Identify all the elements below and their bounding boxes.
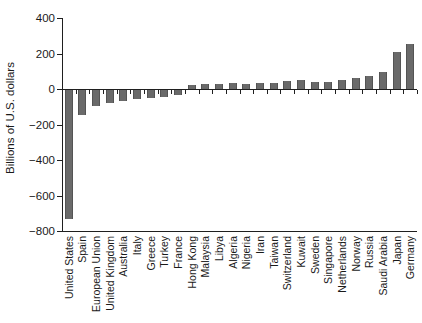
bar-australia — [119, 89, 127, 101]
category-tick — [199, 90, 200, 94]
y-tick — [57, 125, 62, 126]
category-tick — [308, 90, 309, 94]
bar-turkey — [160, 89, 168, 97]
bar-united-kingdom — [106, 89, 114, 103]
current-account-bar-chart: Billions of U.S. dollars 4002000−200−400… — [0, 0, 422, 323]
bar-switzerland — [283, 81, 291, 89]
bar-spain — [78, 89, 86, 115]
bar-sweden — [311, 82, 319, 89]
category-tick — [267, 90, 268, 94]
category-tick — [390, 90, 391, 94]
y-tick-label: −400 — [0, 153, 55, 167]
category-tick — [212, 90, 213, 94]
category-tick — [362, 90, 363, 94]
category-tick — [294, 90, 295, 94]
bar-singapore — [324, 82, 332, 89]
category-label-iran: Iran — [254, 236, 266, 254]
category-label-european-union: European Union — [90, 236, 102, 312]
category-tick — [403, 90, 404, 94]
category-tick — [158, 90, 159, 94]
category-tick — [117, 90, 118, 94]
bar-germany — [406, 44, 414, 89]
y-axis-line — [62, 18, 63, 232]
category-label-spain: Spain — [76, 236, 88, 263]
category-label-united-states: United States — [63, 236, 75, 299]
category-tick — [417, 90, 418, 94]
y-tick-label: 200 — [0, 47, 55, 61]
y-tick-label: 400 — [0, 11, 55, 25]
y-tick-label: −600 — [0, 189, 55, 203]
category-tick — [76, 90, 77, 94]
y-tick — [57, 231, 62, 232]
x-bottom-line — [62, 231, 417, 232]
y-tick — [57, 18, 62, 19]
category-label-greece: Greece — [145, 236, 157, 270]
y-tick-label: −800 — [0, 224, 55, 238]
category-label-france: France — [172, 236, 184, 269]
category-tick — [89, 90, 90, 94]
category-label-libya: Libya — [213, 236, 225, 261]
category-label-united-kingdom: United Kingdom — [104, 236, 116, 311]
bar-united-states — [65, 89, 73, 219]
bar-greece — [147, 89, 155, 98]
category-label-japan: Japan — [391, 236, 403, 265]
bar-norway — [352, 78, 360, 89]
category-tick — [103, 90, 104, 94]
y-tick — [57, 196, 62, 197]
category-label-australia: Australia — [117, 236, 129, 277]
bar-netherlands — [338, 80, 346, 89]
category-label-turkey: Turkey — [158, 236, 170, 268]
category-label-italy: Italy — [131, 236, 143, 255]
category-label-norway: Norway — [350, 236, 362, 272]
category-label-saudi-arabia: Saudi Arabia — [377, 236, 389, 296]
category-label-hong-kong: Hong Kong — [186, 236, 198, 289]
category-label-singapore: Singapore — [322, 236, 334, 284]
category-label-netherlands: Netherlands — [336, 236, 348, 293]
category-tick — [185, 90, 186, 94]
category-tick — [62, 90, 63, 94]
category-tick — [376, 90, 377, 94]
category-tick — [335, 90, 336, 94]
bar-saudi-arabia — [379, 72, 387, 89]
bar-european-union — [92, 89, 100, 106]
y-tick — [57, 54, 62, 55]
bar-kuwait — [297, 80, 305, 89]
category-tick — [226, 90, 227, 94]
category-tick — [321, 90, 322, 94]
category-tick — [349, 90, 350, 94]
category-label-kuwait: Kuwait — [295, 236, 307, 268]
category-label-taiwan: Taiwan — [268, 236, 280, 269]
category-tick — [280, 90, 281, 94]
category-tick — [171, 90, 172, 94]
category-label-switzerland: Switzerland — [281, 236, 293, 290]
category-label-germany: Germany — [404, 236, 416, 279]
category-tick — [240, 90, 241, 94]
category-label-russia: Russia — [363, 236, 375, 268]
category-tick — [253, 90, 254, 94]
category-label-nigeria: Nigeria — [240, 236, 252, 269]
category-label-sweden: Sweden — [309, 236, 321, 274]
y-tick — [57, 160, 62, 161]
category-tick — [144, 90, 145, 94]
bar-italy — [133, 89, 141, 99]
bar-japan — [393, 52, 401, 89]
category-label-malaysia: Malaysia — [199, 236, 211, 277]
y-tick-label: −200 — [0, 118, 55, 132]
y-tick-label: 0 — [0, 82, 55, 96]
bar-russia — [365, 76, 373, 89]
plot-area: 4002000−200−400−600−800United StatesSpai… — [0, 0, 422, 323]
category-tick — [130, 90, 131, 94]
category-label-algeria: Algeria — [227, 236, 239, 269]
